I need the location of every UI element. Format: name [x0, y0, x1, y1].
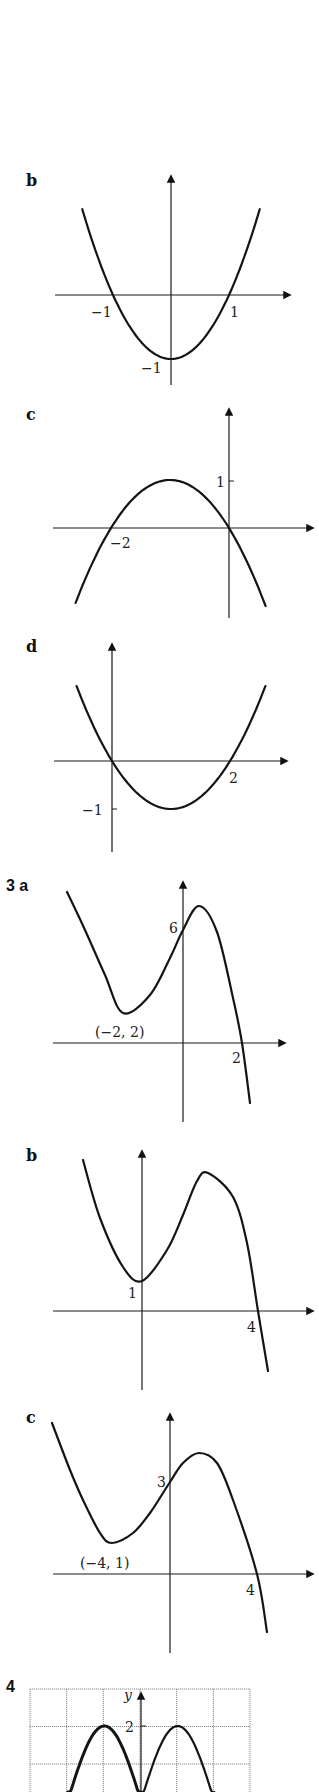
- x-intercept-label: 4: [247, 1319, 256, 1335]
- y-tick-label: −1: [82, 802, 103, 818]
- parabola-curve: [77, 686, 266, 809]
- x-intercept-label-left: −1: [91, 304, 112, 320]
- question-label: 3 a: [6, 877, 28, 894]
- parabola-curve: [76, 480, 266, 606]
- graph-2b: b −1 1 −1: [26, 171, 290, 385]
- y-axis-label: y: [123, 1687, 133, 1703]
- turning-point-label: (−2, 2): [95, 1024, 144, 1040]
- graph-3a: 3 a (−2, 2) 6 2: [6, 877, 285, 1122]
- cubic-curve: [52, 1423, 267, 1632]
- graph-4: 4 y 2: [6, 1678, 250, 1792]
- question-label: 4: [6, 1678, 15, 1695]
- graph-2c: c −2 1: [26, 405, 313, 618]
- abs-sine-curve-right: [141, 1726, 214, 1792]
- y-intercept-label: 6: [169, 920, 178, 936]
- part-label: d: [26, 637, 37, 656]
- grid: [30, 1689, 250, 1792]
- y-intercept-label: −1: [141, 360, 162, 376]
- part-label: c: [26, 1408, 36, 1427]
- y-tick-label: 1: [216, 474, 225, 490]
- part-label: b: [26, 1146, 37, 1165]
- x-intercept-label: 2: [232, 1050, 241, 1066]
- cubic-curve: [67, 892, 250, 1103]
- x-intercept-label: 2: [229, 770, 238, 786]
- worked-answers-figure: b −1 1 −1 c −2 1 d 2 −1 3 a (−2, 2) 6 2: [0, 0, 319, 1792]
- graph-2d: d 2 −1: [26, 637, 287, 852]
- graph-3c: c (−4, 1) 3 4: [26, 1408, 313, 1653]
- part-label: c: [26, 405, 36, 424]
- x-intercept-label: −2: [110, 535, 131, 551]
- y-tick-label: 2: [125, 1719, 134, 1735]
- x-intercept-label: 4: [246, 1582, 255, 1598]
- turning-point-label: (−4, 1): [80, 1555, 129, 1571]
- graph-3b: b 1 4: [26, 1146, 313, 1390]
- y-intercept-label: 1: [128, 1285, 137, 1301]
- y-intercept-label: 3: [157, 1474, 166, 1490]
- x-intercept-label-right: 1: [230, 304, 239, 320]
- cubic-curve: [83, 1160, 268, 1371]
- part-label: b: [26, 171, 37, 190]
- abs-sine-curve-left: [68, 1726, 141, 1792]
